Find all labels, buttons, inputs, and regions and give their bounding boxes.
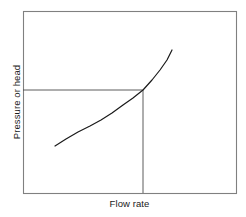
x-axis-label: Flow rate bbox=[23, 198, 236, 209]
y-axis-label: Pressure or head bbox=[10, 11, 24, 193]
plot-canvas bbox=[0, 0, 246, 217]
figure-background bbox=[0, 0, 246, 217]
chart-figure: Pressure or head Flow rate bbox=[0, 0, 246, 217]
